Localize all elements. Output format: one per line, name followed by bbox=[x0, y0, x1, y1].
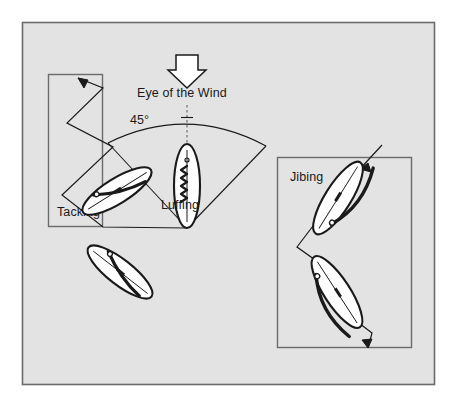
jibing-label: Jibing bbox=[290, 170, 323, 184]
angle-label: 45° bbox=[130, 113, 149, 127]
luffing-label: Luffing bbox=[161, 198, 199, 212]
eye-of-the-wind-label: Eye of the Wind bbox=[137, 86, 227, 100]
sailing-diagram: Eye of the Wind 45° Tacking Luffing bbox=[0, 0, 456, 405]
luffing-boat bbox=[174, 144, 200, 228]
diagram-canvas: Eye of the Wind 45° Tacking Luffing bbox=[0, 0, 456, 405]
